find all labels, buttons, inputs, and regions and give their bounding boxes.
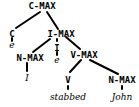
edge-cmax-c xyxy=(16,12,40,28)
edge-vmax-v xyxy=(70,60,81,72)
edge-imax-nmax xyxy=(33,39,50,52)
word-i: I xyxy=(25,73,29,83)
node-i: I xyxy=(54,43,59,53)
node-n-max-subject: N-MAX xyxy=(16,53,43,63)
node-c: C xyxy=(9,29,14,39)
edge-cmax-imax xyxy=(47,12,58,29)
node-v: V xyxy=(65,75,70,85)
node-v-max: V-MAX xyxy=(70,50,97,60)
node-c-max: C-MAX xyxy=(28,1,55,11)
node-c-empty: e xyxy=(9,40,14,50)
node-n-max-object: N-MAX xyxy=(108,75,135,85)
word-stabbed: stabbed xyxy=(50,92,86,102)
edge-vmax-nmax2 xyxy=(90,60,118,74)
word-john: John xyxy=(112,92,133,102)
node-i-empty: e xyxy=(54,55,59,65)
node-i-max: I-MAX xyxy=(47,29,74,39)
